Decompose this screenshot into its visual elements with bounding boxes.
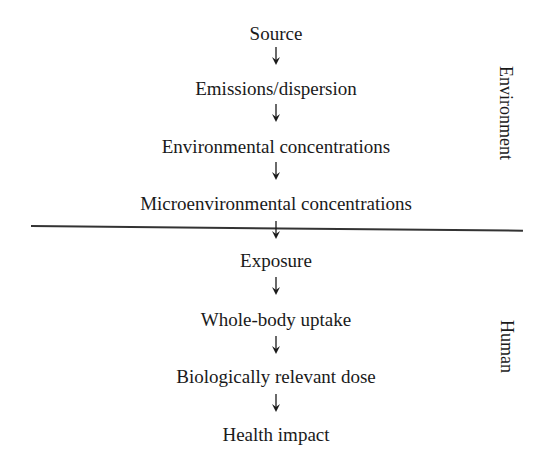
down-arrow-icon [270, 104, 282, 122]
step-environmental-concentrations: Environmental concentrations [0, 136, 547, 158]
down-arrow-icon [270, 47, 282, 65]
down-arrow-icon [270, 221, 282, 239]
step-microenvironmental-concentrations: Microenvironmental concentrations [0, 193, 547, 215]
down-arrow-icon [270, 336, 282, 354]
section-label-human: Human [496, 320, 517, 373]
step-health-impact: Health impact [0, 424, 547, 446]
down-arrow-icon [270, 394, 282, 412]
step-source: Source [0, 23, 547, 45]
step-emissions-dispersion: Emissions/dispersion [0, 78, 547, 100]
step-exposure: Exposure [0, 250, 547, 272]
section-label-environment: Environment [495, 66, 516, 160]
down-arrow-icon [270, 277, 282, 295]
step-biologically-relevant-dose: Biologically relevant dose [0, 366, 547, 388]
step-whole-body-uptake: Whole-body uptake [0, 309, 547, 331]
down-arrow-icon [270, 162, 282, 180]
